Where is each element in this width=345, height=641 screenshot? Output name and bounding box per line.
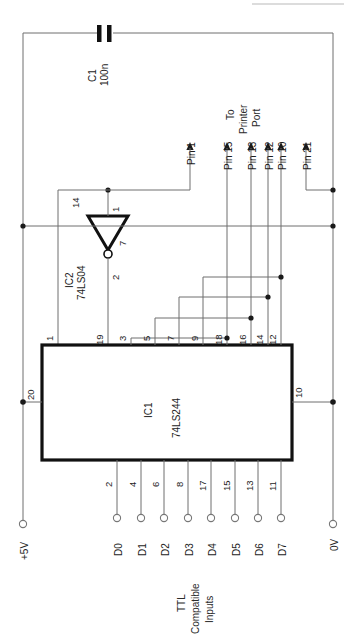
ic1-bottom-pin-label: 6: [150, 482, 161, 487]
ic1-top-pin-label: 16: [237, 334, 248, 345]
gnd-terminal-label: 0V: [329, 538, 340, 551]
printer-port-caption-line3: Port: [251, 108, 262, 127]
ic1-type-label: 74LS244: [171, 398, 182, 438]
ic2-pin2-label: 2: [110, 275, 121, 280]
ic1-top-pin-label: 1: [44, 336, 55, 341]
ic1-pin20-label: 20: [25, 389, 36, 400]
ic1-top-pin-label: 5: [141, 336, 152, 341]
ttl-caption-line3: Inputs: [204, 596, 215, 623]
data-terminal-label: D4: [207, 543, 218, 556]
data-terminal-label: D3: [184, 543, 195, 556]
data-terminal-label: D7: [277, 543, 288, 556]
ic1-bottom-pin-label: 4: [127, 482, 138, 487]
ic2-type-label: 74LS04: [76, 265, 87, 300]
ic1-top-pin-label: 3: [117, 336, 128, 341]
ic1-bottom-pin-label: 11: [267, 481, 278, 491]
ic1-ref-label: IC1: [143, 402, 154, 418]
ic1-bottom-pin-label: 17: [197, 480, 208, 491]
ic1-pin10-label: 10: [293, 387, 304, 398]
ic1-bottom-pin-label: 15: [221, 480, 232, 491]
printer-pin-label: Pin 13: [247, 141, 258, 170]
ic1-top-pin-label: 19: [94, 334, 105, 345]
c1-value-label: 100n: [99, 64, 110, 86]
ic1-bottom-pin-label: 2: [103, 482, 114, 487]
circuit-diagram-canvas: C1 100n IC2 74LS04 14 1 7 2 IC1 74LS244 …: [0, 0, 345, 641]
ic1-top-pin-label: 7: [165, 336, 176, 341]
data-terminal-label: D6: [254, 543, 265, 556]
printer-port-caption-line2: Printer: [238, 104, 249, 134]
ic1-bottom-pin-label: 8: [174, 482, 185, 487]
ic1-bottom-pin-label: 13: [244, 480, 255, 491]
printer-pin-label: Pin 12: [264, 141, 275, 170]
ic1-top-pin-label: 14: [254, 334, 265, 345]
data-terminal-label: D0: [113, 543, 124, 556]
ttl-caption-line1: TTL: [176, 594, 187, 612]
printer-pin-label: Pin 15: [223, 141, 234, 170]
c1-ref-label: C1: [87, 69, 98, 82]
ic1-top-pin-label: 9: [189, 336, 200, 341]
ic2-pin14-label: 14: [70, 197, 81, 208]
schematic-label-layer: C1 100n IC2 74LS04 14 1 7 2 IC1 74LS244 …: [0, 0, 345, 641]
printer-port-caption-line1: To: [225, 109, 236, 120]
printer-pin-label: Pin 1: [186, 142, 197, 165]
vcc-terminal-label: +5V: [19, 542, 30, 560]
data-terminal-label: D5: [231, 543, 242, 556]
data-terminal-label: D1: [137, 543, 148, 556]
printer-pin-label: Pin 21: [302, 141, 313, 170]
printer-pin-label: Pin 10: [277, 141, 288, 170]
ic1-top-pin-label: 18: [213, 334, 224, 345]
ttl-caption-line2: Compatible: [190, 583, 201, 634]
ic2-ref-label: IC2: [64, 272, 75, 288]
ic1-top-pin-label: 12: [267, 334, 278, 345]
ic2-pin7-label: 7: [117, 241, 128, 246]
data-terminal-label: D2: [160, 543, 171, 556]
ic2-pin1-label: 1: [110, 207, 121, 212]
